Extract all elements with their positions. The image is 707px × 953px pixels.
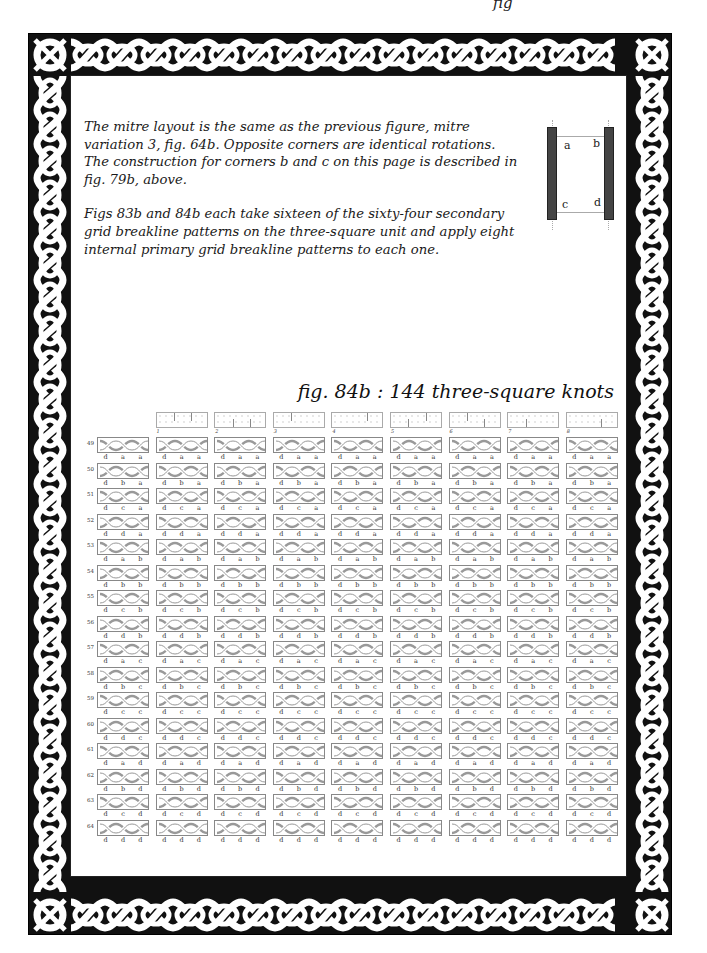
knot-cell xyxy=(566,718,618,734)
corner-letter: d xyxy=(511,836,521,844)
column-number: 1 xyxy=(157,428,160,434)
mitre-bottom-line xyxy=(557,212,604,213)
corner-letter: d xyxy=(135,810,145,818)
corner-letter: b xyxy=(118,479,128,487)
column-header-pattern-1 xyxy=(156,412,208,428)
corner-letter: d xyxy=(159,479,169,487)
corner-letter: d xyxy=(335,504,345,512)
corner-letter: d xyxy=(235,836,245,844)
corner-letter: c xyxy=(294,606,304,614)
corner-letter: b xyxy=(428,632,438,640)
corner-letter: c xyxy=(587,504,597,512)
knot-cell xyxy=(97,692,149,708)
cropped-header-text: fig xyxy=(493,0,513,12)
corner-letter: b xyxy=(177,479,187,487)
corner-letter: a xyxy=(118,657,128,665)
corner-letter: d xyxy=(218,504,228,512)
knot-cell xyxy=(507,743,559,759)
breakline-tick xyxy=(291,413,292,421)
corner-letter: d xyxy=(218,734,228,742)
corner-letter: d xyxy=(511,657,521,665)
knot-cell xyxy=(273,667,325,683)
corner-letter: d xyxy=(311,810,321,818)
column-header-pattern-7 xyxy=(507,412,559,428)
knot-cell xyxy=(331,488,383,504)
corner-letter: a xyxy=(135,453,145,461)
corner-letter: d xyxy=(101,504,111,512)
knot-cell xyxy=(566,667,618,683)
knot-cell xyxy=(156,437,208,453)
corner-letter: d xyxy=(218,708,228,716)
corner-letter: d xyxy=(311,785,321,793)
corner-letter: b xyxy=(428,606,438,614)
corner-letter: c xyxy=(528,504,538,512)
corner-letter: d xyxy=(452,504,462,512)
corner-letter: d xyxy=(276,759,286,767)
knot-cell xyxy=(273,718,325,734)
corner-letter: b xyxy=(604,632,614,640)
corner-letter: b xyxy=(370,581,380,589)
corner-letter: d xyxy=(218,453,228,461)
corner-letter: b xyxy=(253,581,263,589)
column-number: 3 xyxy=(274,428,277,434)
corner-letter: d xyxy=(159,759,169,767)
corner-letter: d xyxy=(218,479,228,487)
corner-letter: a xyxy=(528,657,538,665)
knot-cell xyxy=(566,488,618,504)
corner-letter: a xyxy=(352,657,362,665)
corner-letter: c xyxy=(194,708,204,716)
corner-letter: d xyxy=(159,555,169,563)
corner-letter: d xyxy=(335,734,345,742)
corner-letter: d xyxy=(569,504,579,512)
corner-letter: d xyxy=(218,785,228,793)
knot-cell xyxy=(390,514,442,530)
corner-letter: d xyxy=(101,555,111,563)
corner-letter: c xyxy=(528,606,538,614)
column-header-pattern-2 xyxy=(214,412,266,428)
corner-letter: d xyxy=(235,530,245,538)
knot-cell xyxy=(449,437,501,453)
corner-letter: b xyxy=(370,555,380,563)
corner-letter: d xyxy=(511,479,521,487)
corner-letter: a xyxy=(253,453,263,461)
knot-cell xyxy=(214,667,266,683)
row-label: 53 xyxy=(82,542,94,548)
corner-letter: d xyxy=(511,810,521,818)
figure-caption: fig. 84b : 144 three-square knots xyxy=(298,380,614,402)
corner-letter: d xyxy=(511,734,521,742)
corner-letter: d xyxy=(101,683,111,691)
corner-letter: c xyxy=(428,683,438,691)
corner-letter: d xyxy=(352,734,362,742)
corner-letter: d xyxy=(159,504,169,512)
corner-letter: c xyxy=(118,504,128,512)
corner-letter: d xyxy=(276,708,286,716)
corner-letter: a xyxy=(411,759,421,767)
corner-letter: d xyxy=(604,759,614,767)
corner-letter: b xyxy=(411,785,421,793)
corner-letter: d xyxy=(101,785,111,793)
corner-letter: a xyxy=(487,530,497,538)
knot-cell xyxy=(566,794,618,810)
corner-letter: c xyxy=(235,504,245,512)
corner-letter: a xyxy=(194,504,204,512)
corner-letter: d xyxy=(335,836,345,844)
breakline-tick xyxy=(408,419,409,427)
knot-cell xyxy=(449,718,501,734)
corner-letter: c xyxy=(177,606,187,614)
corner-letter: a xyxy=(177,453,187,461)
corner-letter: d xyxy=(394,657,404,665)
corner-letter: a xyxy=(587,759,597,767)
corner-letter: a xyxy=(311,530,321,538)
knot-cell xyxy=(214,692,266,708)
knot-cell xyxy=(97,769,149,785)
corner-letter: c xyxy=(370,708,380,716)
intro-paragraph-2: Figs 83b and 84b each take sixteen of th… xyxy=(84,205,524,258)
column-header-pattern-4 xyxy=(331,412,383,428)
corner-letter: d xyxy=(511,785,521,793)
corner-letter: a xyxy=(135,530,145,538)
knot-cell xyxy=(507,692,559,708)
knot-cell xyxy=(390,437,442,453)
corner-letter: d xyxy=(177,530,187,538)
corner-letter: d xyxy=(218,683,228,691)
corner-letter: b xyxy=(352,683,362,691)
